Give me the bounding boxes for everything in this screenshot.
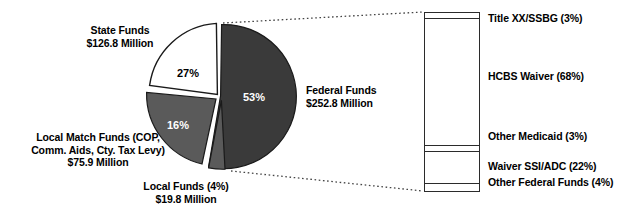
label-state-funds-line2: $126.8 Million [57,37,183,50]
label-state-funds-line1: State Funds [57,24,183,37]
bar-label-other-federal-funds: Other Federal Funds (4%) [488,176,613,189]
label-state-funds: State Funds $126.8 Million [57,24,183,49]
label-federal-funds: Federal Funds $252.8 Million [306,84,436,109]
label-local-match-line3: $75.9 Million [2,156,194,169]
bar-label-hcbs-waiver: HCBS Waiver (68%) [488,70,584,83]
label-federal-funds-line2: $252.8 Million [306,97,436,110]
pie-value-state: 27% [177,67,199,79]
chart-canvas: 53% 27% 16% State Funds $126.8 Million F… [0,0,643,211]
bar-segment-hcbs-waiver [424,18,480,146]
pie-value-federal: 53% [243,91,265,103]
label-local-funds: Local Funds (4%) $19.8 Million [106,180,266,205]
label-local-funds-line2: $19.8 Million [106,193,266,206]
bar-segment-waiver-ssi-adc [424,151,480,184]
pie-value-local-match: 16% [167,119,189,131]
label-local-match-line1: Local Match Funds (COP, [2,131,194,144]
bar-label-title-xx-ssbg: Title XX/SSBG (3%) [488,12,582,25]
bar-segment-other-federal-funds [424,183,480,192]
bar-label-waiver-ssi-adc: Waiver SSI/ADC (22%) [488,160,596,173]
label-local-funds-line1: Local Funds (4%) [106,180,266,193]
label-local-match-line2: Comm. Aids, Cty. Tax Levy) [2,144,194,157]
label-federal-funds-line1: Federal Funds [306,84,436,97]
federal-funds-breakdown-bar [424,12,480,192]
label-local-match-funds: Local Match Funds (COP, Comm. Aids, Cty.… [2,131,194,169]
bar-label-other-medicaid: Other Medicaid (3%) [488,130,587,143]
